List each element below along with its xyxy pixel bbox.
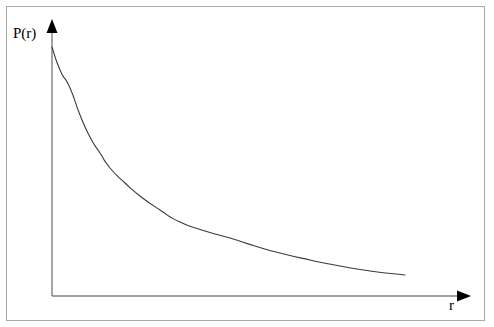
y-axis-up-arrow-icon: [47, 19, 58, 33]
x-axis-right-arrow-icon: [457, 291, 471, 302]
decay-curve-line: [52, 47, 405, 275]
data-series-group: [52, 47, 405, 275]
y-axis-label: P(r): [13, 26, 36, 41]
x-axis-label: r: [449, 298, 454, 313]
figure-root: P(r) r: [0, 0, 494, 327]
axes-group: [47, 19, 472, 302]
plot-canvas: [0, 0, 494, 327]
